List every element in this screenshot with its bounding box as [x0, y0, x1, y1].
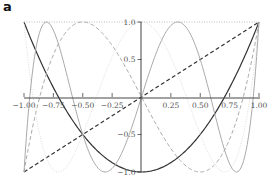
y-tick-label: −0.5 [117, 130, 135, 139]
x-tick-label: −0.75 [42, 101, 65, 110]
x-tick-label: 0.25 [163, 101, 180, 110]
x-tick-label: 1.00 [251, 101, 268, 110]
y-tick-label: −1.0 [117, 168, 135, 177]
x-tick-label: −0.25 [101, 101, 124, 110]
y-tick-label: 0.5 [124, 55, 136, 64]
x-tick-label: 0.50 [192, 101, 209, 110]
y-tick-label: 1.0 [124, 18, 136, 27]
x-tick-label: 0.75 [221, 101, 238, 110]
chebyshev-chart: −1.00−0.75−0.50−0.250.250.500.751.001.00… [0, 0, 280, 189]
x-tick-label: −1.00 [13, 101, 36, 110]
x-tick-label: −0.50 [71, 101, 94, 110]
